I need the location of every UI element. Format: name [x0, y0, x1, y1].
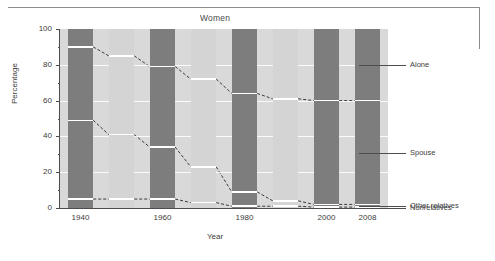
segment-1970-spouse	[191, 79, 216, 167]
segment-divider	[232, 93, 257, 95]
segment-1940-other	[68, 120, 93, 199]
segment-1950-nonrel	[109, 199, 134, 208]
y-minor-tick	[58, 47, 60, 48]
segment-divider	[150, 198, 175, 200]
y-axis-title: Percentage	[10, 63, 19, 104]
segment-divider	[191, 166, 216, 168]
x-tick-label-1940: 1940	[72, 213, 90, 222]
segment-divider	[355, 100, 380, 102]
chart-page: Women Percentage Year 100806040200 19401…	[0, 0, 495, 261]
segment-divider	[109, 134, 134, 136]
bar-1990[interactable]	[273, 29, 298, 208]
x-tick-label-1960: 1960	[154, 213, 172, 222]
segment-1960-alone	[150, 29, 175, 67]
y-minor-tick	[58, 119, 60, 120]
segment-1980-other	[232, 192, 257, 206]
bar-1970[interactable]	[191, 29, 216, 208]
y-tick-mark	[56, 65, 60, 66]
bar-2000[interactable]	[314, 29, 339, 208]
segment-1990-alone	[273, 29, 298, 99]
chart-title: Women	[0, 13, 430, 23]
segment-divider	[314, 100, 339, 102]
segment-1980-alone	[232, 29, 257, 93]
segment-divider	[68, 198, 93, 200]
segment-1970-other	[191, 167, 216, 203]
segment-2000-spouse	[314, 101, 339, 205]
segment-1970-nonrel	[191, 203, 216, 208]
y-tick-label: 60	[26, 96, 52, 105]
bar-1980[interactable]	[232, 29, 257, 208]
y-tick-mark	[56, 172, 60, 173]
segment-1980-spouse	[232, 93, 257, 191]
segment-divider	[191, 202, 216, 204]
x-axis-title: Year	[0, 232, 430, 241]
x-tick-label-2000: 2000	[318, 213, 336, 222]
bar-1950[interactable]	[109, 29, 134, 208]
segment-divider	[314, 206, 339, 208]
segment-1960-other	[150, 147, 175, 199]
y-tick-label: 20	[26, 167, 52, 176]
segment-divider	[273, 200, 298, 202]
segment-1990-spouse	[273, 99, 298, 201]
segment-1940-alone	[68, 29, 93, 47]
legend-label-nonrelatives[interactable]: Nonrelatives	[410, 203, 452, 212]
legend-leader-line	[359, 153, 406, 154]
legend-leader-line	[359, 65, 406, 66]
segment-divider	[314, 204, 339, 206]
y-minor-tick	[58, 190, 60, 191]
y-tick-label: 80	[26, 60, 52, 69]
right-divider-rule	[479, 7, 480, 49]
segment-divider	[68, 120, 93, 122]
y-tick-label: 100	[26, 24, 52, 33]
segment-1940-nonrel	[68, 199, 93, 208]
y-tick-label: 40	[26, 131, 52, 140]
top-divider-rule	[8, 7, 480, 8]
y-tick-mark	[56, 101, 60, 102]
segment-divider	[273, 205, 298, 207]
segment-1940-spouse	[68, 47, 93, 120]
segment-1950-alone	[109, 29, 134, 56]
segment-1960-nonrel	[150, 199, 175, 208]
y-tick-mark	[56, 208, 60, 209]
legend-label-alone[interactable]: Alone	[410, 60, 429, 69]
segment-divider	[232, 191, 257, 193]
segment-2000-alone	[314, 29, 339, 101]
segment-divider	[109, 198, 134, 200]
legend-label-spouse[interactable]: Spouse	[410, 148, 435, 157]
segment-1970-alone	[191, 29, 216, 79]
bar-1940[interactable]	[68, 29, 93, 208]
segment-1960-spouse	[150, 67, 175, 148]
segment-1950-other	[109, 135, 134, 199]
segment-divider	[273, 98, 298, 100]
bar-1960[interactable]	[150, 29, 175, 208]
bar-2008[interactable]	[355, 29, 380, 208]
y-minor-tick	[58, 83, 60, 84]
segment-divider	[109, 55, 134, 57]
segment-divider	[191, 78, 216, 80]
segment-divider	[232, 205, 257, 207]
y-tick-mark	[56, 29, 60, 30]
segment-1950-spouse	[109, 56, 134, 135]
x-axis-line	[59, 208, 389, 209]
x-tick-label-1980: 1980	[236, 213, 254, 222]
plot-area	[60, 29, 388, 208]
y-tick-label: 0	[26, 203, 52, 212]
segment-divider	[150, 146, 175, 148]
y-tick-mark	[56, 136, 60, 137]
x-tick-label-2008: 2008	[359, 213, 377, 222]
segment-divider	[68, 46, 93, 48]
segment-divider	[150, 66, 175, 68]
legend-leader-line	[359, 208, 406, 209]
y-minor-tick	[58, 154, 60, 155]
